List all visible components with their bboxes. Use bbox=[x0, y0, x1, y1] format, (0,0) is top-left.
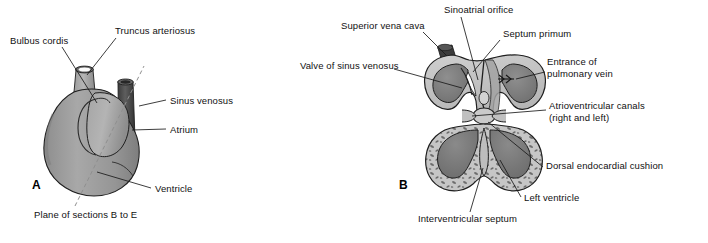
label-atrium: Atrium bbox=[170, 124, 198, 136]
label-septum-primum: Septum primum bbox=[503, 28, 571, 40]
septum-primum-node bbox=[479, 92, 489, 105]
heart-development-figure: Bulbus cordis Truncus arteriosus Sinus v… bbox=[0, 0, 708, 243]
panel-b-artwork bbox=[394, 17, 546, 212]
label-superior-vena-cava: Superior vena cava bbox=[341, 20, 425, 32]
panel-a-artwork bbox=[44, 38, 166, 206]
label-sinoatrial-orifice: Sinoatrial orifice bbox=[444, 4, 513, 16]
label-sinus-venosus: Sinus venosus bbox=[170, 95, 233, 107]
label-plane-of-sections: Plane of sections B to E bbox=[34, 209, 137, 221]
truncus-arteriosus-tube bbox=[74, 66, 95, 92]
label-valve-of-sinus-venosus: Valve of sinus venosus bbox=[300, 60, 399, 72]
label-interventricular-septum: Interventricular septum bbox=[418, 213, 517, 225]
label-entrance-of-pulmonary-vein: Entrance of pulmonary vein bbox=[547, 56, 613, 79]
label-atrioventricular-canals: Atrioventricular canals (right and left) bbox=[549, 100, 645, 123]
label-ventricle: Ventricle bbox=[155, 183, 192, 195]
panel-letter-a: A bbox=[32, 178, 41, 192]
label-left-ventricle: Left ventricle bbox=[524, 192, 579, 204]
label-truncus-arteriosus: Truncus arteriosus bbox=[115, 25, 195, 37]
label-dorsal-endocardial-cushion: Dorsal endocardial cushion bbox=[546, 160, 663, 172]
label-bulbus-cordis: Bulbus cordis bbox=[10, 35, 68, 47]
panel-letter-b: B bbox=[399, 178, 408, 192]
